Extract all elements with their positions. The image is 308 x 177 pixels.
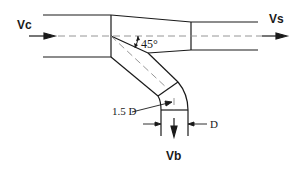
angle-arrow-top-icon	[136, 36, 140, 41]
inlet-flow-arrow-icon	[44, 33, 55, 39]
branch-inner-wall	[148, 53, 178, 82]
branch-diameter-label: D	[210, 119, 218, 130]
elbow-inner-arc	[158, 96, 161, 110]
elbow-radius-label: 1.5 D	[112, 106, 136, 117]
straight-velocity-label: Vs	[269, 13, 284, 25]
branch-velocity-label: Vb	[166, 150, 181, 162]
duct-junction-diagram: Vc Vs Vb 45° 1.5 D D	[0, 0, 308, 177]
inlet-velocity-label: Vc	[17, 19, 32, 31]
branch-flow-arrow-icon	[171, 126, 177, 137]
diameter-right-arrow-icon	[188, 122, 194, 126]
transition-top-wall	[111, 15, 191, 22]
diagram-drawing	[0, 0, 308, 177]
radius-leader-arrow-icon	[165, 101, 172, 106]
elbow-outer-arc	[178, 82, 188, 110]
branch-angle-label: 45°	[141, 38, 158, 50]
diameter-left-arrow-icon	[155, 122, 161, 126]
radius-leader-line	[132, 103, 168, 112]
outlet-flow-arrow-icon	[276, 33, 287, 39]
branch-outer-wall	[111, 57, 158, 96]
